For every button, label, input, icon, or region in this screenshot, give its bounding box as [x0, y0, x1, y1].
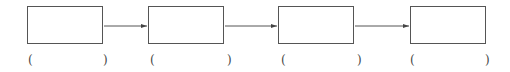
flow-box-1 [27, 6, 103, 44]
blank-3-close: ) [357, 53, 362, 67]
blank-1-close: ) [103, 53, 108, 67]
flow-box-3 [278, 6, 354, 44]
blank-3-open: ( [281, 53, 286, 67]
blank-1-open: ( [28, 53, 33, 67]
blank-4-open: ( [410, 53, 415, 67]
blank-2-close: ) [227, 53, 232, 67]
blank-2-open: ( [150, 53, 155, 67]
flow-box-4 [410, 6, 486, 44]
blank-4-close: ) [485, 53, 490, 67]
flow-box-2 [148, 6, 224, 44]
